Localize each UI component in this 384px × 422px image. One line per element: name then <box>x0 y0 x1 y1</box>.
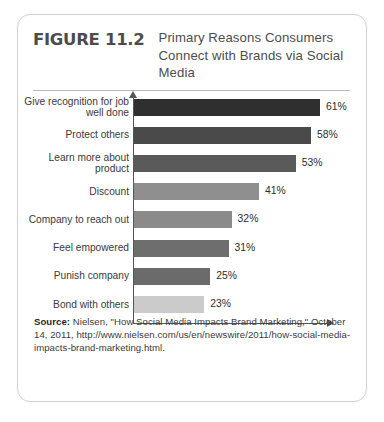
bar-rect <box>134 127 311 144</box>
bar-rect <box>134 99 320 116</box>
bar-value-label: 32% <box>238 213 259 224</box>
bar-rect <box>134 155 296 172</box>
bar-category-label: Discount <box>21 186 133 197</box>
bar-row: Discount41% <box>18 181 366 202</box>
source-citation: Source: Nielsen, "How Social Media Impac… <box>34 315 352 355</box>
bar-value-label: 58% <box>317 129 338 140</box>
bar-row: Give recognition for job well done61% <box>18 97 366 118</box>
bar-value-label: 41% <box>265 185 286 196</box>
bar-value-label: 23% <box>210 298 231 309</box>
bar-row: Punish company25% <box>18 266 366 287</box>
bar-category-label: Learn more about product <box>21 152 133 175</box>
bar-rect <box>134 296 204 313</box>
bar-rect <box>134 183 259 200</box>
bar-row: Learn more about product53% <box>18 153 366 174</box>
bar-row: Bond with others23% <box>18 294 366 315</box>
bar-rect <box>134 240 229 257</box>
bar-category-label: Bond with others <box>21 299 133 310</box>
bar-category-label: Protect others <box>21 129 133 140</box>
bar-row: Protect others58% <box>18 125 366 146</box>
bar-rect <box>134 211 232 228</box>
bar-category-label: Give recognition for job well done <box>21 96 133 119</box>
bar-rect <box>134 268 210 285</box>
bar-value-label: 25% <box>216 270 237 281</box>
figure-header: FIGURE 11.2 Primary Reasons Consumers Co… <box>18 15 366 82</box>
bar-category-label: Company to reach out <box>21 214 133 225</box>
bar-row: Company to reach out32% <box>18 209 366 230</box>
source-text: Nielsen, "How Social Media Impacts Brand… <box>34 316 350 353</box>
bar-chart: Give recognition for job well done61%Pro… <box>18 91 366 334</box>
figure-card: FIGURE 11.2 Primary Reasons Consumers Co… <box>17 14 367 402</box>
bar-value-label: 61% <box>326 101 347 112</box>
source-label: Source: <box>34 316 70 327</box>
bar-row: Feel empowered31% <box>18 238 366 259</box>
bar-category-label: Feel empowered <box>21 242 133 253</box>
figure-number: FIGURE 11.2 <box>33 29 144 49</box>
bar-value-label: 31% <box>235 242 256 253</box>
bar-category-label: Punish company <box>21 270 133 281</box>
bar-value-label: 53% <box>302 157 323 168</box>
figure-title: Primary Reasons Consumers Connect with B… <box>158 29 350 82</box>
